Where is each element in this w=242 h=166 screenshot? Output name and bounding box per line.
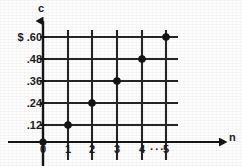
data-point-2	[88, 99, 96, 107]
c-axis-label: c	[38, 2, 44, 14]
data-point-4	[138, 55, 146, 63]
xtick-label-3: 3	[110, 143, 124, 155]
ytick-label-024: .24	[2, 97, 42, 109]
data-point-5	[162, 33, 170, 41]
xtick-label-4: 4	[135, 143, 149, 155]
vertical-gridlines	[68, 30, 166, 160]
xtick-label-1: 1	[61, 143, 75, 155]
ytick-label-048: .48	[2, 53, 42, 65]
x-axis-continuation-ellipsis: ···	[150, 143, 166, 155]
n-axis-label: n	[229, 131, 236, 143]
xtick-label-2: 2	[85, 143, 99, 155]
ytick-label-012: .12	[2, 119, 42, 131]
xtick-label-0: 0	[36, 143, 50, 155]
data-point-1	[64, 121, 72, 129]
data-point-3	[113, 77, 121, 85]
horizontal-gridlines	[43, 37, 178, 125]
graph-figure: c n $ .60 .48 .36 .24 .12 0 1 2 3 4 5 ··…	[0, 0, 242, 166]
ytick-label-036: .36	[2, 75, 42, 87]
ytick-label-060: $ .60	[2, 31, 42, 43]
data-points	[39, 33, 169, 145]
